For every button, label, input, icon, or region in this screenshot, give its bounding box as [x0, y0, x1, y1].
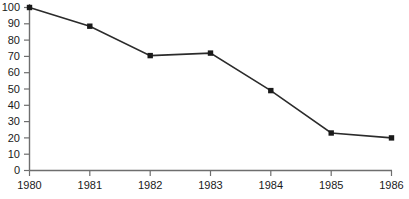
data-point-1984 — [268, 88, 273, 93]
y-tick-label-90: 90 — [0, 18, 20, 29]
x-tick-label-1985: 1985 — [311, 180, 351, 191]
x-tick-label-1982: 1982 — [130, 180, 170, 191]
x-tick-label-1983: 1983 — [191, 180, 231, 191]
y-tick-label-10: 10 — [0, 149, 20, 160]
y-tick-label-20: 20 — [0, 133, 20, 144]
y-tick-label-0: 0 — [0, 165, 20, 176]
data-point-1985 — [329, 130, 334, 135]
data-series-line — [30, 8, 392, 138]
data-point-1981 — [87, 24, 92, 29]
data-point-markers — [27, 5, 394, 141]
x-axis-ticks — [30, 171, 392, 177]
y-tick-label-50: 50 — [0, 84, 20, 95]
data-point-1983 — [208, 50, 213, 55]
x-tick-label-1980: 1980 — [10, 180, 50, 191]
y-tick-label-100: 100 — [0, 2, 20, 13]
line-chart: 100 90 80 70 60 50 40 30 20 10 0 1980 19… — [0, 0, 409, 199]
x-tick-label-1986: 1986 — [372, 180, 409, 191]
x-tick-label-1981: 1981 — [70, 180, 110, 191]
chart-plot-area — [0, 0, 409, 199]
data-point-1982 — [148, 53, 153, 58]
x-tick-label-1984: 1984 — [251, 180, 291, 191]
y-axis-ticks — [24, 8, 30, 171]
data-point-1980 — [27, 5, 32, 10]
y-tick-label-40: 40 — [0, 100, 20, 111]
y-tick-label-70: 70 — [0, 51, 20, 62]
y-tick-label-80: 80 — [0, 35, 20, 46]
y-tick-label-60: 60 — [0, 67, 20, 78]
data-point-1986 — [389, 135, 394, 140]
y-tick-label-30: 30 — [0, 116, 20, 127]
